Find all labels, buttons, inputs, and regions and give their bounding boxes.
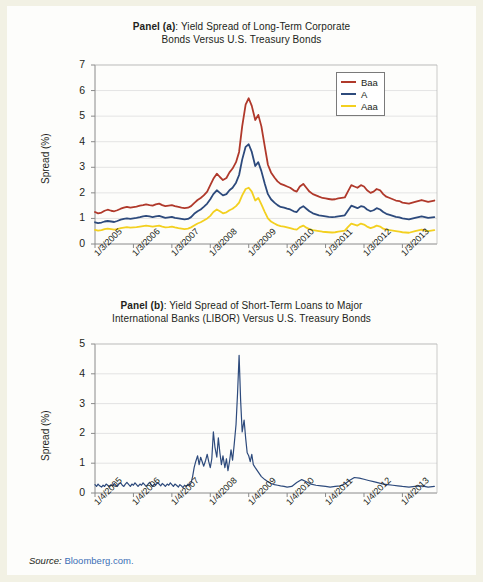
y-tick-label: 0 <box>65 486 85 498</box>
y-tick-label: 2 <box>65 186 85 198</box>
legend-item-a: A <box>341 88 378 100</box>
figure-page: Panel (a): Yield Spread of Long-Term Cor… <box>7 6 476 575</box>
y-tick-label: 2 <box>65 426 85 438</box>
y-tick-label: 7 <box>65 58 85 70</box>
y-tick-label: 5 <box>65 109 85 121</box>
legend-swatch-aaa <box>341 105 356 108</box>
legend-label-baa: Baa <box>361 77 378 88</box>
panel-a-legend: Baa A Aaa <box>336 72 385 116</box>
y-tick-label: 1 <box>65 211 85 223</box>
source-link[interactable]: Bloomberg.com. <box>64 555 133 566</box>
legend-label-a: A <box>361 89 367 100</box>
source-prefix: Source: <box>29 555 62 566</box>
y-tick-label: 5 <box>65 337 85 349</box>
legend-item-baa: Baa <box>341 76 378 88</box>
y-tick-label: 6 <box>65 84 85 96</box>
legend-item-aaa: Aaa <box>341 100 378 112</box>
legend-swatch-a <box>341 93 356 96</box>
legend-label-aaa: Aaa <box>361 101 378 112</box>
y-tick-label: 4 <box>65 367 85 379</box>
source-note: Source: Bloomberg.com. <box>29 555 134 566</box>
y-tick-label: 4 <box>65 135 85 147</box>
legend-swatch-baa <box>341 81 356 84</box>
y-tick-label: 3 <box>65 397 85 409</box>
y-tick-label: 1 <box>65 456 85 468</box>
y-tick-label: 0 <box>65 237 85 249</box>
y-tick-label: 3 <box>65 160 85 172</box>
